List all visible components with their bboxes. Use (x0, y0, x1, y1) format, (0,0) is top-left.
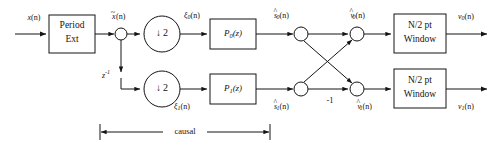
window-top-label-line1: N/2 pt (408, 20, 432, 30)
gain-minus-one-label: -1 (326, 95, 333, 105)
period-ext-label-line2: Ext (65, 34, 79, 44)
butterfly-node-bottom-left[interactable] (294, 82, 308, 96)
window-bottom-label-line2: Window (404, 89, 436, 99)
signal-label-s-hat-0: s^0(n) (273, 7, 289, 21)
output-label-v1: v1(n) (458, 102, 474, 112)
delay-label: z-1 (101, 69, 110, 79)
input-signal-label: x(n) (27, 13, 41, 22)
polyphase-p1-label: P1(z) (223, 83, 242, 94)
butterfly-node-top-left[interactable] (294, 27, 308, 41)
window-top-label-line2: Window (404, 34, 436, 44)
polyphase-p0-label: P0(z) (223, 28, 242, 39)
butterfly-node-top-right[interactable] (350, 27, 364, 41)
causal-span-label: causal (174, 126, 196, 136)
diagram-canvas: x(n) Period Ext x~(n) z-1 ↓2 ↓2 (0, 0, 497, 149)
window-bottom-label-line1: N/2 pt (408, 75, 432, 85)
wire-butterfly-cross-up (304, 40, 352, 82)
split-node[interactable] (115, 28, 127, 40)
period-ext-label-line1: Period (60, 20, 85, 30)
filter-bank-diagram: x(n) Period Ext x~(n) z-1 ↓2 ↓2 (0, 0, 497, 149)
signal-label-xi-1: ξ1(n) (174, 102, 190, 112)
wire-delay-to-decimator-bottom (121, 78, 140, 89)
output-label-v0: v0(n) (458, 12, 474, 22)
signal-label-v-hat-0: v^0(n) (349, 7, 365, 21)
wire-butterfly-cross-down (304, 41, 352, 83)
butterfly-node-bottom-right[interactable] (350, 82, 364, 96)
decimator-top-block[interactable] (144, 16, 180, 52)
signal-label-xi-0: ξ0(n) (184, 11, 200, 21)
signal-label-v-hat-1: v^1(n) (356, 98, 372, 112)
signal-label-x-tilde: x~(n) (111, 8, 126, 21)
signal-label-s-hat-1: s^1(n) (273, 98, 289, 112)
